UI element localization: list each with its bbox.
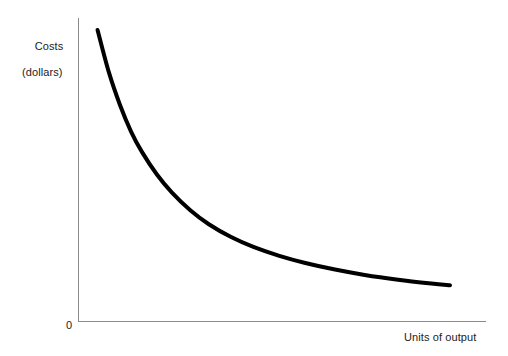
x-axis-label: Units of output xyxy=(404,331,476,344)
cost-curve-path xyxy=(98,30,450,285)
data-series-group xyxy=(98,30,450,285)
cost-curve-figure: Costs (dollars) 0 Units of output xyxy=(0,0,508,356)
chart-plot-area xyxy=(0,0,508,356)
origin-label: 0 xyxy=(66,319,72,332)
y-axis-label-line1: Costs xyxy=(35,40,64,52)
axes-group xyxy=(78,18,486,322)
y-axis-label-line2: (dollars) xyxy=(22,66,63,79)
y-axis-label: Costs (dollars) xyxy=(22,27,63,105)
